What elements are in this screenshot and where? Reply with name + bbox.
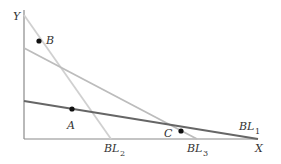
budget-line-1 xyxy=(24,101,258,139)
bl3-label: BL 3 xyxy=(186,142,208,158)
svg-text:BL: BL xyxy=(103,142,119,155)
svg-text:BL: BL xyxy=(238,120,254,133)
y-axis-label: Y xyxy=(13,10,22,23)
point-c-label: C xyxy=(164,127,173,140)
svg-text:BL: BL xyxy=(186,142,202,155)
budget-line-diagram: Y X B A C BL 2 BL 3 BL 1 xyxy=(0,0,281,164)
point-b-label: B xyxy=(45,34,54,47)
point-b xyxy=(36,38,41,43)
svg-text:1: 1 xyxy=(255,127,260,136)
bl1-label: BL 1 xyxy=(238,120,260,136)
point-c xyxy=(178,128,183,133)
svg-text:2: 2 xyxy=(120,149,125,158)
svg-text:3: 3 xyxy=(203,149,208,158)
x-axis-label: X xyxy=(254,142,264,155)
bl2-label: BL 2 xyxy=(103,142,125,158)
point-a-label: A xyxy=(66,119,75,132)
point-a xyxy=(69,106,74,111)
